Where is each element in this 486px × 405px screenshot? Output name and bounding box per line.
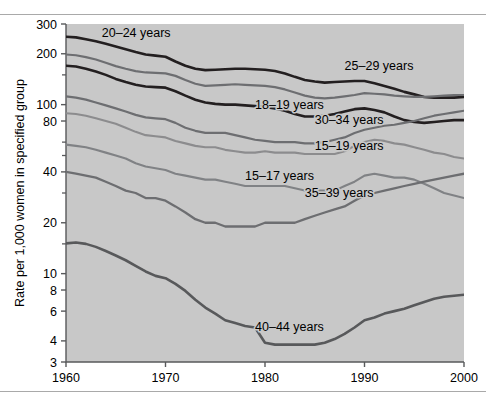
y-tick-label-3: 3 [50, 356, 57, 370]
chart-figure: 3002001008040201086431960197019801990200… [0, 0, 486, 405]
y-tick-label-300: 300 [36, 18, 57, 32]
y-axis-title: Rate per 1,000 women in specified group [13, 79, 27, 307]
y-tick-label-8: 8 [50, 284, 57, 298]
series-label-15-17 years: 15–17 years [245, 169, 314, 183]
y-tick-label-80: 80 [43, 115, 57, 129]
x-tick-label-2000: 2000 [450, 371, 478, 385]
y-tick-label-20: 20 [43, 216, 57, 230]
series-label-40-44 years: 40–44 years [255, 320, 324, 334]
series-label-30-34 years: 30–34 years [315, 113, 384, 127]
y-tick-label-100: 100 [36, 98, 57, 112]
y-tick-label-4: 4 [50, 334, 57, 348]
y-tick-label-10: 10 [43, 267, 57, 281]
series-label-20-24 years: 20–24 years [102, 26, 171, 40]
plot-background [66, 24, 464, 362]
series-label-35-39 years: 35–39 years [305, 186, 374, 200]
y-tick-label-40: 40 [43, 165, 57, 179]
x-tick-label-1980: 1980 [251, 371, 279, 385]
x-tick-label-1970: 1970 [152, 371, 180, 385]
series-label-25-29 years: 25–29 years [345, 59, 414, 73]
series-label-15-19 years: 15–19 years [315, 139, 384, 153]
y-tick-label-6: 6 [50, 305, 57, 319]
x-tick-label-1960: 1960 [52, 371, 80, 385]
series-label-18-19 years: 18–19 years [255, 98, 324, 112]
chart-screenshot: 3002001008040201086431960197019801990200… [0, 0, 486, 405]
chart-canvas: 3002001008040201086431960197019801990200… [0, 0, 486, 405]
y-tick-label-200: 200 [36, 47, 57, 61]
x-tick-label-1990: 1990 [351, 371, 379, 385]
